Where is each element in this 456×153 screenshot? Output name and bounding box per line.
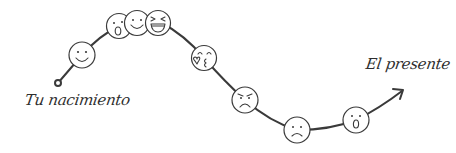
sad-face-icon [284, 117, 310, 143]
start-label: Tu nacimiento [24, 91, 131, 109]
angry-face-icon [232, 87, 258, 113]
timeline-svg [0, 0, 456, 153]
timeline-diagram: Tu nacimiento El presente [0, 0, 456, 153]
end-label: El presente [365, 55, 452, 73]
surprised-face-icon [343, 107, 369, 133]
kissing-face-icon [192, 46, 217, 71]
happy-face-icon [69, 42, 95, 68]
start-point-icon [55, 80, 61, 86]
laughing-face-icon [146, 11, 171, 36]
